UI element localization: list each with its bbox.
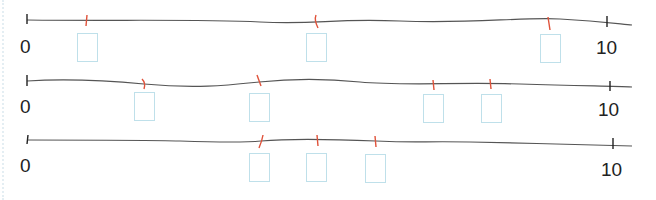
answer-box-1-1[interactable] bbox=[77, 33, 98, 62]
answer-box-2-3[interactable] bbox=[423, 94, 444, 123]
answer-box-3-1[interactable] bbox=[249, 153, 270, 182]
mark-tick-3-3 bbox=[375, 136, 376, 147]
number-lines-drawing bbox=[0, 0, 656, 200]
answer-box-2-2[interactable] bbox=[249, 93, 270, 122]
answer-box-2-1[interactable] bbox=[134, 92, 155, 121]
mark-tick-3-2 bbox=[317, 135, 318, 146]
mark-tick-1-1 bbox=[86, 15, 87, 26]
number-line-3 bbox=[27, 140, 632, 147]
answer-box-3-2[interactable] bbox=[306, 153, 327, 182]
answer-box-3-3[interactable] bbox=[365, 154, 386, 183]
start-label-row-1: 0 bbox=[20, 37, 31, 56]
mark-tick-2-4 bbox=[490, 79, 491, 89]
end-label-row-3: 10 bbox=[601, 160, 622, 179]
end-label-row-2: 10 bbox=[598, 100, 619, 119]
answer-box-1-3[interactable] bbox=[540, 34, 561, 63]
zero-tick-3 bbox=[27, 135, 28, 144]
number-line-1 bbox=[27, 19, 632, 25]
start-label-row-3: 0 bbox=[20, 156, 31, 175]
number-line-2 bbox=[27, 79, 632, 87]
start-label-row-2: 0 bbox=[20, 97, 31, 116]
answer-box-2-4[interactable] bbox=[481, 94, 502, 123]
answer-box-1-2[interactable] bbox=[306, 33, 327, 62]
end-label-row-1: 10 bbox=[596, 38, 617, 57]
mark-tick-2-2 bbox=[257, 75, 261, 86]
mark-tick-2-3 bbox=[433, 80, 434, 90]
